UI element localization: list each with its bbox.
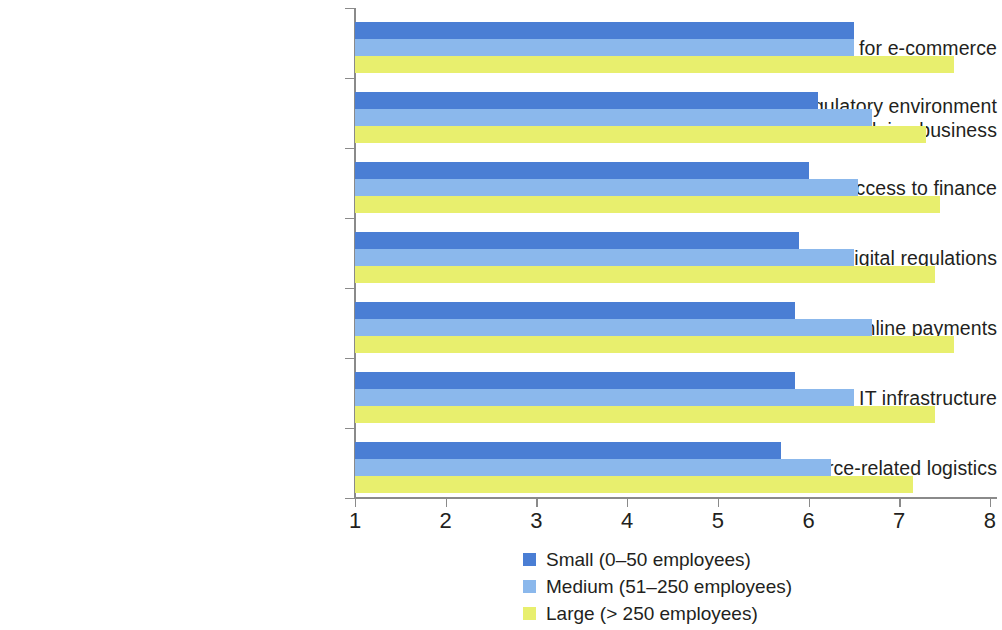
legend-swatch-icon [523,553,536,566]
x-axis-tick [446,498,447,507]
x-axis-tick [627,498,628,507]
x-axis-tick [809,498,810,507]
y-axis-tick [345,428,355,429]
legend-label: Small (0–50 employees) [546,549,751,571]
bar [355,39,854,56]
y-axis-tick [345,78,355,79]
legend-swatch-icon [523,607,536,620]
legend-item: Small (0–50 employees) [523,546,943,573]
bar [355,22,854,39]
legend: Small (0–50 employees)Medium (51–250 emp… [523,546,943,627]
x-axis-tick [899,498,900,507]
bar [355,179,858,196]
y-axis-tick [345,288,355,289]
y-axis-tick [345,8,355,9]
x-axis-tick [990,498,991,507]
y-axis-tick [345,148,355,149]
bar [355,459,831,476]
x-axis-tick-label: 1 [335,508,375,534]
x-axis-tick [718,498,719,507]
legend-label: Medium (51–250 employees) [546,576,792,598]
legend-label: Large (> 250 employees) [546,603,758,625]
y-axis-tick [345,218,355,219]
legend-item: Large (> 250 employees) [523,600,943,627]
y-axis-tick [345,358,355,359]
bar [355,232,799,249]
bar [355,126,926,143]
legend-swatch-icon [523,580,536,593]
x-axis-tick-label: 2 [426,508,466,534]
bar [355,249,854,266]
bar [355,162,809,179]
x-axis-tick-label: 5 [698,508,738,534]
bar [355,196,940,213]
x-axis-tick-label: 8 [970,508,1002,534]
bar [355,302,795,319]
bar [355,266,935,283]
bar [355,372,795,389]
bar [355,442,781,459]
bar [355,406,935,423]
legend-item: Medium (51–250 employees) [523,573,943,600]
bar [355,319,872,336]
x-axis-tick [355,498,356,507]
bar [355,336,954,353]
x-axis-tick-label: 4 [607,508,647,534]
x-axis-tick-label: 6 [789,508,829,534]
x-axis-tick-label: 7 [879,508,919,534]
plot-area [355,8,997,498]
bar [355,56,954,73]
x-axis-tick [536,498,537,507]
y-axis-tick [345,498,355,499]
bar [355,109,872,126]
bar [355,92,818,109]
x-axis-tick-label: 3 [516,508,556,534]
bar [355,476,913,493]
bar [355,389,854,406]
